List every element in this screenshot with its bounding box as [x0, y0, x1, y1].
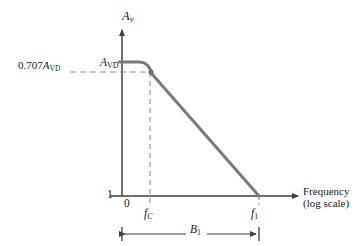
gain-flat-label: AVD [100, 57, 118, 70]
x-axis-label-line2: (log scale) [303, 198, 349, 209]
unity-gain-frequency-label: f1 [251, 208, 258, 221]
half-power-gain-label: 0.707AVD [18, 60, 60, 72]
origin-label: 0 [124, 198, 130, 210]
frequency-response-figure: Av AVD 0.707AVD 1 0 fC f1 B1 Frequency (… [0, 0, 361, 246]
knee-point-marker [148, 69, 153, 74]
x-axis-label-line1: Frequency [303, 186, 349, 197]
y-axis-label: Av [122, 10, 133, 23]
bandwidth-label: B1 [190, 224, 201, 237]
plot-canvas [0, 0, 361, 246]
y-tick-label-one: 1 [107, 189, 113, 201]
gain-response-curve [119, 62, 259, 196]
cutoff-frequency-label: fC [144, 208, 152, 221]
